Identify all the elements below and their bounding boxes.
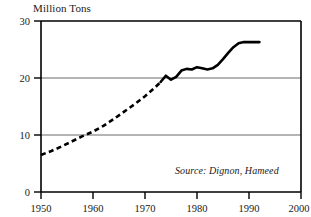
- y-label-10: 10: [20, 130, 31, 141]
- x-label-1990: 1990: [239, 203, 260, 214]
- chart-figure: Million Tons: [0, 0, 311, 217]
- x-label-1960: 1960: [83, 203, 104, 214]
- x-label-1950: 1950: [31, 203, 52, 214]
- y-axis-labels: 30 20 10 0: [20, 16, 31, 198]
- x-label-2000: 2000: [289, 203, 310, 214]
- x-label-1980: 1980: [187, 203, 208, 214]
- data-line-observed: [161, 42, 260, 82]
- y-tick-marks: [34, 21, 41, 192]
- x-tick-marks: [41, 192, 301, 199]
- y-label-30: 30: [20, 16, 31, 27]
- y-label-20: 20: [20, 73, 31, 84]
- x-label-1970: 1970: [135, 203, 156, 214]
- y-label-0: 0: [25, 187, 30, 198]
- source-note: Source: Dignon, Hameed: [175, 165, 279, 176]
- data-line-estimated: [41, 82, 161, 155]
- x-axis-labels: 1950 1960 1970 1980 1990 2000: [31, 203, 310, 214]
- chart-plot: 30 20 10 0 1950 1960 1970 1980 1990 2000: [0, 0, 311, 217]
- gridlines: [41, 78, 301, 135]
